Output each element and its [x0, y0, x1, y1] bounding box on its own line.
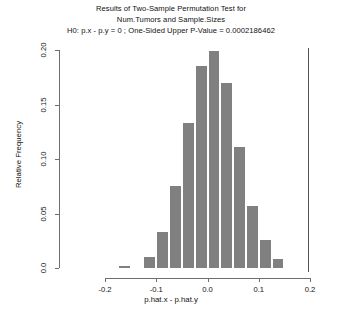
histogram-bar: [259, 240, 272, 268]
y-axis-tick: [55, 159, 59, 160]
x-axis-tick: [105, 278, 106, 282]
histogram-bar: [220, 83, 233, 268]
histogram-bar: [272, 259, 285, 268]
x-axis-tick-label: 0.2: [305, 285, 316, 294]
histogram-bar: [143, 257, 156, 268]
histogram-bar: [233, 147, 246, 268]
y-axis-tick-label: 0.0: [39, 257, 48, 279]
histogram-bar: [195, 66, 208, 268]
x-axis-tick-label: -0.1: [150, 285, 163, 294]
histogram-bar: [156, 232, 169, 268]
x-axis-title: p.hat.x - p.hat.y: [0, 295, 342, 304]
plot-area: 0.00.050.100.150.20-0.2-0.10.00.10.2: [0, 0, 342, 320]
histogram-bar: [182, 123, 195, 268]
x-axis-tick-label: 0.0: [202, 285, 213, 294]
y-axis-tick: [55, 268, 59, 269]
x-axis-tick-label: -0.2: [98, 285, 111, 294]
y-axis-tick: [55, 105, 59, 106]
observed-statistic-line: [308, 48, 309, 272]
y-axis-tick-label: 0.20: [39, 39, 48, 61]
y-axis-line: [59, 50, 60, 268]
y-axis-tick-label: 0.10: [39, 148, 48, 170]
y-axis-tick-label: 0.05: [39, 203, 48, 225]
x-axis-tick: [156, 278, 157, 282]
histogram-bar: [208, 51, 221, 268]
y-axis-tick: [55, 50, 59, 51]
histogram-bar: [246, 206, 259, 268]
histogram-bar: [118, 266, 131, 268]
x-axis-tick-label: 0.1: [253, 285, 264, 294]
permutation-test-histogram-figure: Results of Two-Sample Permutation Test f…: [0, 0, 342, 320]
x-axis-tick: [259, 278, 260, 282]
histogram-bar: [169, 186, 182, 268]
y-axis-tick-label: 0.15: [39, 94, 48, 116]
x-axis-tick: [208, 278, 209, 282]
y-axis-title: Relative Frequency: [14, 110, 23, 200]
x-axis-tick: [310, 278, 311, 282]
y-axis-tick: [55, 214, 59, 215]
